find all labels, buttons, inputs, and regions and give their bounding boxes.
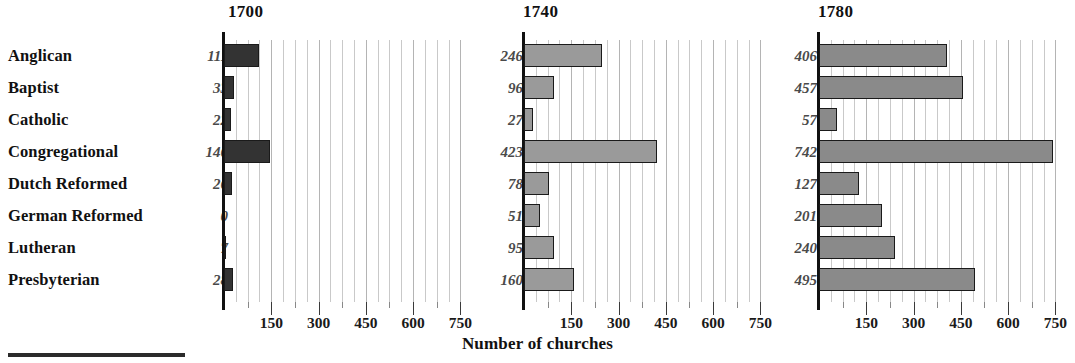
bar-row	[819, 40, 1067, 72]
x-axis-tick-label: 750	[1044, 314, 1067, 332]
bar-value-label: 742	[775, 136, 817, 168]
x-axis-minor-tick	[890, 302, 891, 308]
x-axis-caption: Number of churches	[0, 334, 1075, 354]
bar-value-label: 495	[775, 264, 817, 296]
bar-row	[819, 200, 1067, 232]
bar	[819, 44, 947, 67]
bar-value-label: 201	[775, 200, 817, 232]
x-axis-minor-tick	[1032, 302, 1033, 308]
chart-panel-1780: 1780406457577421272012404951503004506007…	[0, 0, 1075, 363]
bar-row	[819, 136, 1067, 168]
bar-row	[819, 264, 1067, 296]
x-axis-ticks: 150300450600750	[819, 302, 1067, 336]
x-axis-minor-tick	[843, 302, 844, 308]
bar-row	[819, 72, 1067, 104]
bar-value-label: 457	[775, 72, 817, 104]
panel-value-column: 40645757742127201240495	[775, 40, 817, 296]
bar	[819, 140, 1053, 163]
x-axis-tick-label: 150	[855, 314, 878, 332]
bar	[819, 268, 975, 291]
bar-value-label: 127	[775, 168, 817, 200]
x-axis-tick-label: 450	[949, 314, 972, 332]
bar	[819, 108, 837, 131]
bar-row	[819, 104, 1067, 136]
x-axis-tick-label: 600	[996, 314, 1019, 332]
bar	[819, 172, 859, 195]
bar	[819, 76, 963, 99]
bar	[819, 236, 895, 259]
bar-value-label: 57	[775, 104, 817, 136]
bottom-divider	[8, 353, 185, 357]
x-axis-minor-tick	[984, 302, 985, 308]
panel-year-title: 1780	[818, 2, 853, 22]
bar-value-label: 406	[775, 40, 817, 72]
bar-row	[819, 232, 1067, 264]
panel-plot-area	[819, 40, 1067, 302]
x-axis-minor-tick	[937, 302, 938, 308]
bar	[819, 204, 882, 227]
bar-row	[819, 168, 1067, 200]
x-axis-tick-label: 300	[902, 314, 925, 332]
bar-value-label: 240	[775, 232, 817, 264]
